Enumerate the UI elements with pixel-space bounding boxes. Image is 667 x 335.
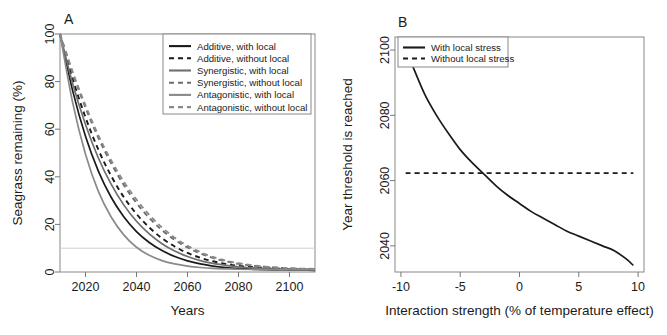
legend-label-4: Antagonistic, with local <box>197 89 294 100</box>
legend-label-3: Synergistic, without local <box>197 77 302 88</box>
y-axis-title: Seagrass remaining (%) <box>10 81 25 226</box>
panel-b-year-threshold: -10-505102040206020802100Interaction str… <box>340 0 667 335</box>
y-tick-label: 2080 <box>378 101 392 129</box>
legend-label-1: Without local stress <box>431 53 514 64</box>
x-tick-label: 2100 <box>276 280 304 294</box>
y-tick-label: 2040 <box>378 232 392 260</box>
x-tick-label: 2040 <box>123 280 151 294</box>
legend-label-5: Antagonistic, without local <box>197 102 307 113</box>
y-tick-label: 80 <box>43 75 57 89</box>
x-tick-label: -10 <box>392 280 410 294</box>
y-tick-label: 20 <box>43 217 57 231</box>
y-tick-label: 100 <box>43 24 57 45</box>
y-axis-title: Year threshold is reached <box>340 78 355 231</box>
x-axis-title: Years <box>170 303 204 318</box>
panel-letter: B <box>398 14 407 30</box>
x-tick-label: 5 <box>575 280 582 294</box>
legend-label-0: With local stress <box>431 42 501 53</box>
x-tick-label: -5 <box>455 280 466 294</box>
panel-a-seagrass-remaining: 20202040206020802100020406080100YearsSea… <box>0 0 340 335</box>
x-axis-title: Interaction strength (% of temperature e… <box>385 303 653 318</box>
y-tick-label: 40 <box>43 170 57 184</box>
panel-a-svg: 20202040206020802100020406080100YearsSea… <box>0 0 340 335</box>
x-tick-label: 2020 <box>72 280 100 294</box>
plot-box <box>395 37 644 272</box>
series-line-0 <box>406 48 634 265</box>
y-tick-label: 2100 <box>378 36 392 64</box>
x-tick-label: 0 <box>516 280 523 294</box>
y-tick-label: 2060 <box>378 167 392 195</box>
legend-label-0: Additive, with local <box>197 41 276 52</box>
legend-label-2: Synergistic, with local <box>197 65 289 76</box>
x-tick-label: 2080 <box>225 280 253 294</box>
x-tick-label: 10 <box>631 280 645 294</box>
panel-b-svg: -10-505102040206020802100Interaction str… <box>340 0 667 335</box>
y-tick-label: 60 <box>43 122 57 136</box>
y-tick-label: 0 <box>43 268 57 275</box>
legend-label-1: Additive, without local <box>197 53 289 64</box>
x-tick-label: 2060 <box>174 280 202 294</box>
panel-letter: A <box>64 11 74 27</box>
figure-container: 20202040206020802100020406080100YearsSea… <box>0 0 667 335</box>
